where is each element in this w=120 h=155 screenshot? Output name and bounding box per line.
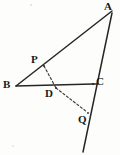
label-point-d: D	[45, 88, 53, 99]
point-marker-d	[55, 87, 57, 89]
label-point-q: Q	[78, 114, 87, 125]
label-point-c: C	[96, 76, 104, 87]
segment-dq-dashed	[56, 88, 87, 112]
geometry-figure: A B C P D Q	[0, 0, 120, 155]
point-marker-p	[43, 65, 45, 67]
label-point-a: A	[104, 1, 112, 12]
scan-speck	[30, 4, 32, 6]
label-point-p: P	[31, 54, 38, 65]
scan-speck	[12, 145, 13, 146]
point-marker-q	[87, 112, 89, 114]
point-marker-c	[92, 83, 94, 85]
label-point-b: B	[3, 79, 10, 90]
